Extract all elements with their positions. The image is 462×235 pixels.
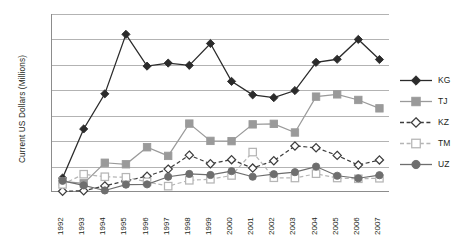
series-canvas <box>52 14 390 192</box>
x-axis-tick-label: 1996 <box>141 217 150 235</box>
x-axis-tick-label: 1998 <box>183 217 192 235</box>
legend-label: UZ <box>438 159 449 169</box>
legend-label: TM <box>438 138 450 148</box>
open-diamond-icon <box>398 112 434 133</box>
legend-label: TJ <box>438 96 447 106</box>
x-axis-tick-label: 1993 <box>77 217 86 235</box>
legend-item-tj[interactable]: TJ <box>398 91 462 112</box>
x-axis-tick-label: 2000 <box>225 217 234 235</box>
x-axis-tick-label: 2006 <box>352 217 361 235</box>
legend-item-uz[interactable]: UZ <box>398 154 462 175</box>
legend-label: KZ <box>438 117 449 127</box>
plot-area <box>51 14 389 192</box>
x-axis-tick-label: 2005 <box>331 217 340 235</box>
x-axis-tick-label: 1994 <box>98 217 107 235</box>
filled-circle-icon <box>398 154 434 175</box>
legend-item-kz[interactable]: KZ <box>398 112 462 133</box>
x-axis-tick-label: 2001 <box>246 217 255 235</box>
y-axis-tick-labels: 70.060.050.040.030.020.010.00.0 <box>0 0 51 235</box>
x-axis-tick-label: 1999 <box>204 217 213 235</box>
x-axis-tick-label: 2003 <box>288 217 297 235</box>
x-axis-tick-label: 1997 <box>162 217 171 235</box>
legend-item-kg[interactable]: KG <box>398 70 462 91</box>
x-axis-tick-label: 1995 <box>119 217 128 235</box>
x-axis-tick-labels: 1992199319941995199619971998199920002001… <box>51 194 389 235</box>
legend: KGTJKZTMUZ <box>398 70 462 175</box>
x-axis-tick-label: 1992 <box>56 217 65 235</box>
filled-square-icon <box>398 91 434 112</box>
x-axis-tick-label: 2004 <box>310 217 319 235</box>
x-axis-tick-label: 2007 <box>373 217 382 235</box>
x-axis-tick-label: 2002 <box>267 217 276 235</box>
legend-label: KG <box>438 75 450 85</box>
open-square-icon <box>398 133 434 154</box>
legend-item-tm[interactable]: TM <box>398 133 462 154</box>
filled-diamond-icon <box>398 70 434 91</box>
line-chart: Current US Dollars (Millions) 70.060.050… <box>0 0 462 235</box>
